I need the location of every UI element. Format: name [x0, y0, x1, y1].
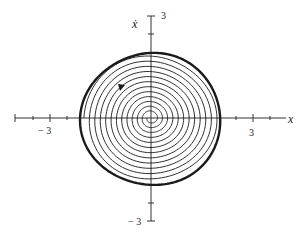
x-axis-label: x: [287, 112, 294, 126]
tick-label-x-pos: 3: [249, 127, 254, 138]
xdot-axis-label: ẋ: [131, 17, 138, 31]
limit-cycle: [80, 53, 220, 185]
phase-portrait-figure: x ẋ − 3 3 3 − 3: [0, 0, 306, 238]
direction-arrow-icon: [118, 84, 125, 91]
tick-label-y-pos: 3: [161, 10, 166, 21]
tick-label-x-neg: − 3: [38, 125, 51, 136]
spiral-trajectory: [84, 56, 217, 179]
tick-label-y-neg: − 3: [128, 216, 141, 227]
